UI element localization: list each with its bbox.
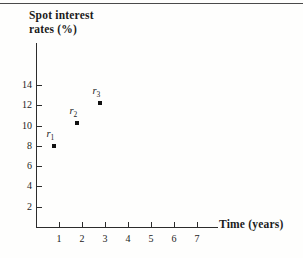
data-point-label: r3 [92,85,100,99]
x-tick-mark [128,222,129,227]
x-tick-label: 6 [167,233,181,244]
x-tick-label: 5 [144,233,158,244]
plot-area: 2468101214 1234567 r1r2r3 Time (years) [0,0,303,258]
x-tick-label: 7 [190,233,204,244]
figure-canvas: Spot interest rates (%) 2468101214 12345… [0,0,303,258]
y-tick-mark [37,105,42,106]
y-tick-mark [37,166,42,167]
y-tick-label: 14 [16,79,32,90]
x-tick-label: 2 [75,233,89,244]
y-tick-label: 12 [16,99,32,110]
data-point [52,144,56,148]
x-axis-title: Time (years) [219,218,283,230]
y-tick-label: 8 [16,140,32,151]
x-axis-line [36,227,218,228]
x-tick-label: 4 [121,233,135,244]
y-tick-label: 10 [16,120,32,131]
x-tick-mark [151,222,152,227]
y-tick-label: 4 [16,180,32,191]
data-point-label: r1 [46,128,54,142]
data-point-label: r2 [69,105,77,119]
x-tick-mark [197,222,198,227]
data-point [98,101,102,105]
y-tick-mark [37,186,42,187]
x-tick-mark [105,222,106,227]
y-tick-label: 6 [16,160,32,171]
y-tick-label: 2 [16,201,32,212]
y-tick-mark [37,207,42,208]
x-tick-mark [59,222,60,227]
x-tick-label: 3 [98,233,112,244]
data-point [75,121,79,125]
y-tick-mark [37,146,42,147]
x-tick-mark [82,222,83,227]
x-tick-label: 1 [52,233,66,244]
y-tick-mark [37,85,42,86]
y-tick-mark [37,126,42,127]
y-axis-line [36,43,37,228]
x-tick-mark [174,222,175,227]
